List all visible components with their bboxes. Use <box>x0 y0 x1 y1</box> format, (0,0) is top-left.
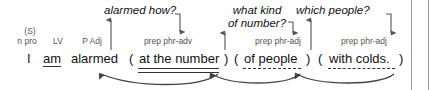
underline-double-at-the-number <box>138 68 219 73</box>
word-subject: I <box>27 52 31 66</box>
close-paren-at-the-number: ) <box>224 52 228 66</box>
phrase-text-at-the-number: at the number <box>139 52 219 66</box>
annotation-alarmed-how: alarmed how? <box>104 4 176 17</box>
underline-dashed-of-people <box>243 68 301 69</box>
underline-dashed-with-colds <box>328 68 395 69</box>
phrase-label-of-people: prep phr-adj <box>241 37 315 46</box>
open-paren-at-the-number: ( <box>129 52 133 66</box>
complement-pos-label: P Adj <box>75 37 109 46</box>
phrase-label-at-the-number: prep phr-adv <box>131 37 205 46</box>
phrase-text-of-people: of people <box>244 52 298 66</box>
connector-alarmed-how-to-phrase <box>175 14 180 32</box>
word-predicate-adjective: alarmed <box>71 52 118 66</box>
close-paren-of-people: ) <box>306 52 310 66</box>
connector-which-people-to-phrase <box>386 14 391 33</box>
right-border-rule <box>411 0 412 90</box>
modifier-curve-colds-to-people <box>297 74 394 83</box>
subject-pos-label: n pro <box>8 37 46 46</box>
modifier-curve-people-to-number <box>212 74 300 83</box>
verb-pos-label: LV <box>46 37 70 46</box>
sentence-diagram-figure: alarmed how? what kind of number? which … <box>0 0 429 90</box>
annotation-what-kind-of-number: what kind of number? <box>211 4 303 29</box>
open-paren-with-colds: ( <box>318 52 322 66</box>
annotation-which-people: which people? <box>296 4 370 17</box>
close-paren-with-colds: ) <box>399 52 403 66</box>
word-linking-verb: am <box>43 52 61 67</box>
phrase-text-with-colds: with colds. <box>329 52 390 66</box>
subject-marker-label: (S) <box>15 27 45 36</box>
annotation-what-kind-line1: what kind <box>211 4 303 17</box>
open-paren-of-people: ( <box>234 52 238 66</box>
phrase-label-with-colds: prep phr-adj <box>327 37 401 46</box>
modifier-curve-number-to-alarmed <box>101 74 218 85</box>
annotation-what-kind-line2: of number? <box>211 17 303 30</box>
